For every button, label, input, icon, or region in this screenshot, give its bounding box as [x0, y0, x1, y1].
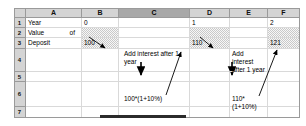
column-header-a[interactable]: A [26, 9, 82, 18]
grid-row-4: Add interest after 1 year Add interest a… [26, 49, 300, 72]
row-header-7[interactable]: 7 [14, 107, 26, 118]
row-header-4[interactable]: 4 [14, 49, 26, 72]
cell-d2[interactable] [190, 28, 230, 38]
grid-row-3: Deposit 100 110 121 [26, 38, 300, 49]
cell-f1[interactable]: 2 [268, 18, 300, 28]
cell-f6[interactable] [268, 82, 300, 107]
row-header-3[interactable]: 3 [14, 38, 26, 49]
cell-d6[interactable] [190, 82, 230, 107]
cell-f5[interactable] [268, 72, 300, 82]
grid-row-6: 100*(1+10%) 110*(1+10%) [26, 82, 300, 107]
column-header-row: A B C D E F [14, 8, 300, 18]
grid-row-1: Year 0 1 2 [26, 18, 300, 28]
cell-b3[interactable]: 100 [82, 38, 119, 49]
cell-a2[interactable]: Value of [26, 28, 82, 38]
cell-c5[interactable] [119, 72, 190, 82]
column-header-b[interactable]: B [82, 9, 119, 18]
cell-d1[interactable]: 1 [190, 18, 230, 28]
horizontal-scrollbar[interactable] [100, 115, 186, 118]
grid-body: Year 0 1 2 Value of Deposit 100 110 121 [26, 18, 300, 118]
cell-f4[interactable] [268, 49, 300, 72]
cell-b2[interactable] [82, 28, 119, 38]
cell-e6[interactable]: 110*(1+10%) [230, 82, 268, 107]
cell-b1[interactable]: 0 [82, 18, 119, 28]
column-header-f[interactable]: F [268, 9, 300, 18]
row-header-6[interactable]: 6 [14, 82, 26, 107]
cell-d4[interactable] [190, 49, 230, 72]
spreadsheet-grid[interactable]: A B C D E F 1 2 3 4 5 6 7 Year 0 1 2 Val… [14, 8, 300, 118]
cell-d3[interactable]: 110 [190, 38, 230, 49]
cell-c6[interactable]: 100*(1+10%) [119, 82, 190, 107]
column-header-e[interactable]: E [230, 9, 268, 18]
cell-f2[interactable] [268, 28, 300, 38]
cell-c2[interactable] [119, 28, 190, 38]
cell-e3[interactable] [230, 38, 268, 49]
cell-a1[interactable]: Year [26, 18, 82, 28]
column-header-c[interactable]: C [119, 9, 190, 18]
row-header-2[interactable]: 2 [14, 28, 26, 38]
cell-b6[interactable] [82, 82, 119, 107]
cell-d7[interactable] [190, 107, 230, 118]
cell-b5[interactable] [82, 72, 119, 82]
cell-f3[interactable]: 121 [268, 38, 300, 49]
cell-a6[interactable] [26, 82, 82, 107]
cell-b4[interactable] [82, 49, 119, 72]
row-header-column: 1 2 3 4 5 6 7 [14, 18, 26, 118]
cell-c4[interactable]: Add interest after 1 year [119, 49, 190, 72]
cell-d5[interactable] [190, 72, 230, 82]
select-all-corner[interactable] [14, 9, 26, 18]
cell-c3[interactable] [119, 38, 190, 49]
cell-a5[interactable] [26, 72, 82, 82]
cell-c1[interactable] [119, 18, 190, 28]
cell-a4[interactable] [26, 49, 82, 72]
grid-row-2: Value of [26, 28, 300, 38]
row-header-1[interactable]: 1 [14, 18, 26, 28]
cell-e1[interactable] [230, 18, 268, 28]
row-header-5[interactable]: 5 [14, 72, 26, 82]
column-header-d[interactable]: D [190, 9, 230, 18]
cell-a3[interactable]: Deposit [26, 38, 82, 49]
cell-e4[interactable]: Add interest after 1 year [230, 49, 268, 72]
cell-e2[interactable] [230, 28, 268, 38]
cell-f7[interactable] [268, 107, 300, 118]
cell-a7[interactable] [26, 107, 82, 118]
